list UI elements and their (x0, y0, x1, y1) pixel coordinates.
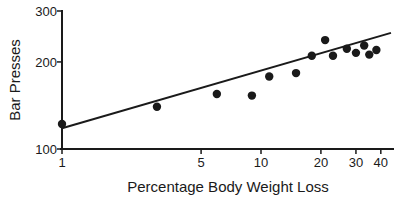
data-point (153, 103, 161, 111)
x-tick-label: 40 (374, 155, 388, 170)
data-point (329, 52, 337, 60)
data-point (360, 41, 368, 49)
y-tick-label: 300 (35, 4, 57, 19)
x-ticks: 1510203040 (58, 149, 388, 170)
y-axis-title: Bar Presses (6, 39, 23, 121)
x-tick-label: 5 (197, 155, 204, 170)
fit-line (62, 33, 391, 128)
y-ticks: 100200300 (35, 4, 62, 157)
x-tick-label: 20 (314, 155, 328, 170)
x-tick-label: 10 (254, 155, 268, 170)
data-point (372, 46, 380, 54)
y-tick-label: 100 (35, 142, 57, 157)
data-point (365, 50, 373, 58)
data-point (58, 120, 66, 128)
chart: 100200300 1510203040 Percentage Body Wei… (0, 0, 404, 207)
x-axis-title: Percentage Body Weight Loss (127, 178, 329, 195)
x-tick-label: 1 (58, 155, 65, 170)
data-point (292, 69, 300, 77)
data-point (343, 45, 351, 53)
data-point (248, 91, 256, 99)
data-point (213, 90, 221, 98)
data-point (265, 72, 273, 80)
data-point (308, 52, 316, 60)
y-tick-label: 200 (35, 55, 57, 70)
x-tick-label: 30 (349, 155, 363, 170)
data-point (352, 49, 360, 57)
data-point (321, 36, 329, 44)
